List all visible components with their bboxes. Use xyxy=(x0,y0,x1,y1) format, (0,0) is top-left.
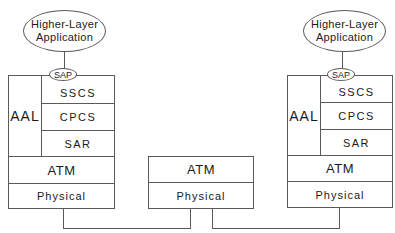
cpcs-label: CPCS xyxy=(60,111,97,123)
physical-layer: Physical xyxy=(8,183,115,209)
sap-label: SAP xyxy=(54,70,72,80)
atm-label: ATM xyxy=(187,162,215,177)
aal-label: AAL xyxy=(10,108,39,124)
cpcs-layer: CPCS xyxy=(320,102,393,130)
sap-oval: SAP xyxy=(49,68,77,81)
atm-layer: ATM xyxy=(287,155,393,182)
cpcs-label: CPCS xyxy=(338,110,375,122)
atm-label: ATM xyxy=(326,161,354,176)
app-label-line1: Higher-Layer xyxy=(311,18,378,31)
connector-left-down xyxy=(63,208,64,229)
connector-right-up xyxy=(339,208,340,229)
physical-layer: Physical xyxy=(287,181,393,208)
app-sap-link xyxy=(342,50,343,70)
aal-label-cell: AAL xyxy=(287,75,321,156)
aal-label-cell: AAL xyxy=(8,75,42,157)
sar-label: SAR xyxy=(343,137,370,149)
sscs-label: SSCS xyxy=(339,80,375,98)
sap-oval: SAP xyxy=(327,68,355,81)
sscs-layer: SSCS xyxy=(41,75,115,104)
connector-right-down xyxy=(212,208,213,229)
sap-label: SAP xyxy=(332,70,350,80)
atm-layer: ATM xyxy=(148,156,254,183)
physical-label: Physical xyxy=(316,189,365,201)
connector-right-horizontal xyxy=(212,228,340,229)
app-sap-link xyxy=(64,50,65,70)
physical-layer: Physical xyxy=(148,182,254,209)
app-label-line2: Application xyxy=(316,31,373,44)
app-label-line1: Higher-Layer xyxy=(31,18,98,31)
higher-layer-application: Higher-Layer Application xyxy=(303,10,386,52)
sar-layer: SAR xyxy=(41,130,115,157)
sar-label: SAR xyxy=(64,138,91,150)
aal-label: AAL xyxy=(289,108,318,124)
atm-label: ATM xyxy=(48,163,76,178)
cpcs-layer: CPCS xyxy=(41,103,115,131)
connector-left-horizontal xyxy=(63,228,191,229)
sscs-label: SSCS xyxy=(60,81,96,99)
physical-label: Physical xyxy=(37,190,86,202)
app-label-line2: Application xyxy=(36,31,93,44)
higher-layer-application: Higher-Layer Application xyxy=(23,10,106,52)
sar-layer: SAR xyxy=(320,129,393,156)
connector-left-up xyxy=(190,208,191,229)
atm-layer: ATM xyxy=(8,156,115,184)
physical-label: Physical xyxy=(177,190,226,202)
